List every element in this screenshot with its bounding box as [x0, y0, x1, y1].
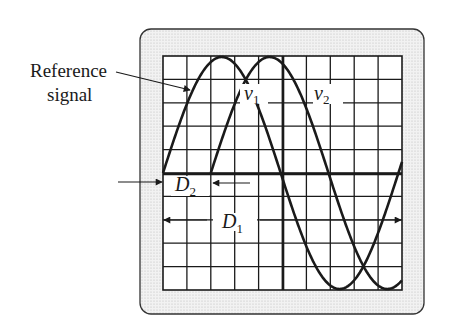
- oscilloscope-diagram: Reference signal v1 v2 D2 D1: [0, 0, 454, 324]
- reference-signal-label-line2: signal: [47, 84, 92, 105]
- reference-signal-label-line1: Reference: [30, 60, 107, 81]
